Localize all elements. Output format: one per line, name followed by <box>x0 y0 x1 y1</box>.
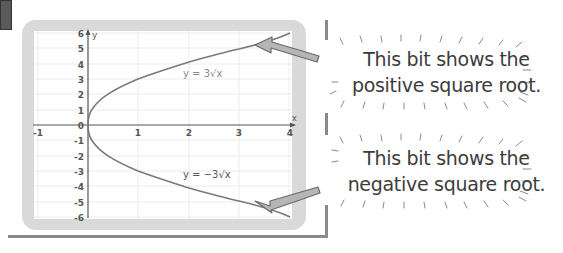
callout-negative: This bit shows the negative square root. <box>330 145 563 197</box>
callout-rays <box>0 0 563 253</box>
callout-positive: This bit shows the positive square root. <box>330 46 563 98</box>
callout-negative-line1: This bit shows the <box>330 145 563 171</box>
callout-positive-line2: positive square root. <box>330 72 563 98</box>
callout-negative-line2: negative square root. <box>330 171 563 197</box>
callout-positive-line1: This bit shows the <box>330 46 563 72</box>
